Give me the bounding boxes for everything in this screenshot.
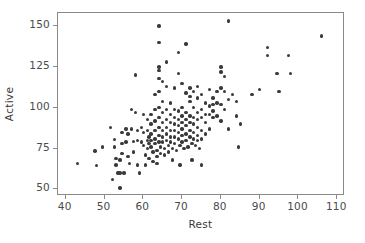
data-point: [196, 139, 199, 142]
y-tick-label: 100: [16, 100, 50, 112]
data-point: [188, 135, 191, 138]
data-point: [157, 126, 160, 129]
data-point: [146, 147, 149, 150]
data-point: [177, 51, 180, 54]
data-point: [161, 80, 164, 83]
data-point: [208, 88, 211, 91]
y-tick-label: 150: [16, 18, 50, 30]
data-point: [178, 163, 181, 166]
data-point: [149, 132, 152, 135]
data-point: [153, 93, 156, 96]
data-point: [161, 140, 164, 143]
data-point: [219, 86, 222, 89]
data-point: [136, 139, 139, 142]
data-point: [118, 186, 121, 189]
data-point: [144, 163, 147, 166]
data-point: [208, 104, 211, 107]
data-point: [177, 109, 180, 112]
data-point: [289, 72, 292, 75]
data-point: [153, 119, 156, 122]
data-point: [161, 100, 164, 103]
data-point: [219, 65, 222, 68]
data-point: [146, 129, 149, 132]
data-point: [180, 121, 183, 124]
data-point: [173, 142, 176, 145]
data-point: [134, 111, 137, 114]
data-point: [149, 122, 152, 125]
data-point: [175, 149, 178, 152]
data-point: [165, 85, 168, 88]
data-point: [173, 122, 176, 125]
data-point: [190, 142, 193, 145]
data-point: [157, 116, 160, 119]
data-points-layer: [58, 13, 343, 194]
y-tick-mark: [53, 66, 57, 67]
data-point: [200, 163, 203, 166]
data-point: [235, 100, 238, 103]
data-point: [151, 160, 154, 163]
data-point: [120, 152, 123, 155]
data-point: [93, 149, 96, 152]
data-point: [184, 42, 187, 45]
data-point: [215, 114, 218, 117]
data-point: [188, 86, 191, 89]
data-point: [235, 114, 238, 117]
data-point: [120, 131, 123, 134]
y-tick-mark: [53, 188, 57, 189]
data-point: [192, 116, 195, 119]
data-point: [188, 114, 191, 117]
data-point: [173, 116, 176, 119]
data-point: [184, 124, 187, 127]
data-point: [140, 126, 143, 129]
data-point: [231, 93, 234, 96]
x-tick-label: 110: [316, 200, 356, 212]
data-point: [180, 134, 183, 137]
data-point: [250, 93, 253, 96]
data-point: [215, 90, 218, 93]
data-point: [177, 131, 180, 134]
y-tick-mark: [53, 148, 57, 149]
data-point: [163, 153, 166, 156]
data-point: [223, 75, 226, 78]
data-point: [130, 127, 133, 130]
data-point: [200, 129, 203, 132]
data-point: [180, 82, 183, 85]
data-point: [184, 91, 187, 94]
data-point: [208, 127, 211, 130]
data-point: [178, 144, 181, 147]
data-point: [275, 72, 278, 75]
data-point: [192, 122, 195, 125]
data-point: [173, 108, 176, 111]
x-tick-mark: [220, 195, 221, 199]
data-point: [134, 73, 137, 76]
data-point: [126, 132, 129, 135]
data-point: [130, 108, 133, 111]
data-point: [76, 162, 79, 165]
data-point: [196, 96, 199, 99]
data-point: [113, 145, 116, 148]
data-point: [147, 157, 150, 160]
data-point: [211, 116, 214, 119]
data-point: [258, 88, 261, 91]
data-point: [122, 171, 125, 174]
data-point: [161, 121, 164, 124]
y-tick-label: 50: [16, 181, 50, 193]
y-axis-title: Active: [2, 12, 16, 195]
data-point: [132, 150, 135, 153]
data-point: [320, 34, 323, 37]
y-tick-label: 75: [16, 141, 50, 153]
data-point: [142, 113, 145, 116]
x-tick-mark: [259, 195, 260, 199]
x-tick-mark: [142, 195, 143, 199]
data-point: [211, 103, 214, 106]
data-point: [215, 101, 218, 104]
data-point: [227, 98, 230, 101]
data-point: [159, 145, 162, 148]
data-point: [161, 129, 164, 132]
data-point: [163, 147, 166, 150]
data-point: [149, 113, 152, 116]
data-point: [95, 164, 98, 167]
data-point: [165, 139, 168, 142]
data-point: [200, 116, 203, 119]
data-point: [157, 77, 160, 80]
